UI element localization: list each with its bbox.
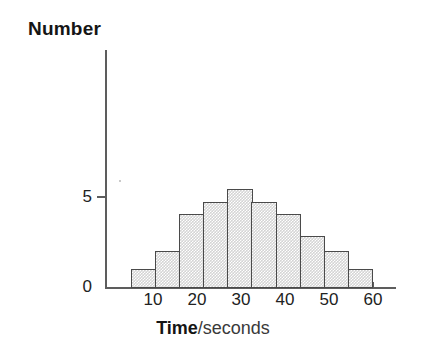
histogram-bar [251, 202, 276, 288]
x-axis-title-unit: /seconds [198, 318, 270, 338]
histogram-bar [300, 236, 325, 287]
histogram-bar [348, 269, 373, 287]
histogram-bar [276, 214, 301, 287]
x-axis-title: Time/seconds [0, 318, 426, 339]
histogram-bar [155, 251, 180, 288]
histogram-bar [324, 251, 349, 288]
histogram-chart: Number 5 0 10 20 30 40 50 60 [0, 0, 426, 356]
histogram-bar [179, 214, 204, 287]
histogram-bar [203, 202, 228, 288]
x-axis-title-bold: Time [156, 318, 198, 338]
histogram-bar [131, 269, 156, 287]
histogram-bar [227, 189, 252, 288]
bar-series [0, 0, 426, 356]
plot-area: Number 5 0 10 20 30 40 50 60 [0, 0, 426, 356]
